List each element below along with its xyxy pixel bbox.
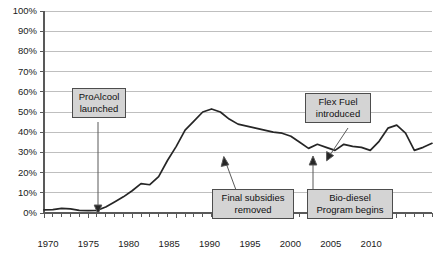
callout-proalcool-launched[interactable]: ProAlcool launched	[72, 88, 126, 118]
plot-area	[0, 0, 442, 266]
callout-bio-diesel-line2: Program begins	[311, 204, 389, 216]
callout-flex-fuel-line1: Flex Fuel	[309, 96, 367, 108]
arrowhead-flex-fuel	[327, 152, 334, 161]
leader-line-final-subsidies	[226, 163, 236, 190]
arrowhead-bio-diesel	[309, 156, 317, 165]
callout-final-subsidies-line2: removed	[216, 204, 290, 216]
chart-container: 100% 90% 80% 70% 60% 50% 40% 30% 20% 10%…	[0, 0, 442, 266]
callout-final-subsidies-line1: Final subsidies	[216, 192, 290, 204]
callout-final-subsidies-removed[interactable]: Final subsidies removed	[212, 189, 294, 219]
arrowhead-final-subsidies	[221, 157, 229, 167]
callout-bio-diesel-program[interactable]: Bio-diesel Program begins	[307, 189, 393, 219]
y-axis-ticks	[40, 11, 44, 213]
callout-bio-diesel-line1: Bio-diesel	[311, 192, 389, 204]
callout-flex-fuel-introduced[interactable]: Flex Fuel introduced	[305, 93, 371, 123]
callout-proalcool-line1: ProAlcool	[76, 91, 122, 103]
callout-proalcool-line2: launched	[76, 103, 122, 115]
callout-flex-fuel-line2: introduced	[309, 108, 367, 120]
